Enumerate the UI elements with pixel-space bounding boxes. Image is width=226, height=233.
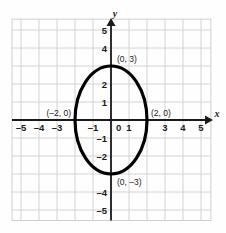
y-tick-label: –5	[96, 205, 107, 216]
annotation-vertex-left: (–2, 0)	[46, 108, 71, 118]
y-tick-label: 1	[102, 97, 108, 108]
x-tick-label: –4	[34, 122, 45, 133]
coordinate-plane-graph: –5–4–3–1013455421–1–2–4–5 (0, 3)(0, –3)(…	[0, 0, 226, 233]
annotation-vertex-top: (0, 3)	[117, 54, 137, 64]
y-tick-label: –2	[96, 151, 107, 162]
y-axis-name: y	[112, 8, 118, 19]
y-tick-label: 2	[102, 79, 107, 90]
annotation-vertex-right: (2, 0)	[151, 108, 171, 118]
annotation-vertex-bottom: (0, –3)	[117, 177, 142, 187]
x-tick-label: –5	[16, 122, 27, 133]
x-tick-label: –1	[88, 122, 99, 133]
y-tick-label: –1	[96, 133, 107, 144]
x-tick-label: 4	[180, 122, 186, 133]
figure-background	[0, 0, 226, 233]
x-tick-label: 1	[126, 122, 132, 133]
y-tick-label: 5	[102, 25, 108, 36]
x-tick-label: 0	[116, 122, 121, 133]
y-tick-label: 4	[102, 43, 108, 54]
x-axis-name: x	[214, 108, 220, 119]
x-tick-label: 3	[162, 122, 167, 133]
y-tick-label: –4	[96, 187, 107, 198]
x-tick-label: –3	[52, 122, 63, 133]
graph-figure: –5–4–3–1013455421–1–2–4–5 (0, 3)(0, –3)(…	[0, 0, 226, 233]
x-tick-label: 5	[198, 122, 204, 133]
